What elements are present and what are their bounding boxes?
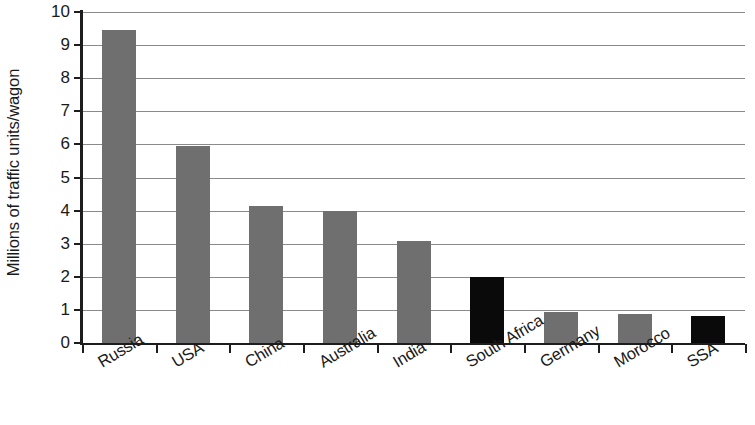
bars-layer bbox=[82, 12, 745, 343]
x-axis-tick bbox=[671, 344, 673, 353]
x-axis-tick bbox=[377, 344, 379, 353]
y-axis-tick bbox=[74, 44, 83, 46]
y-axis-tick bbox=[74, 276, 83, 278]
x-axis-tick bbox=[598, 344, 600, 353]
x-axis-tick bbox=[303, 344, 305, 353]
y-axis-tick-label: 9 bbox=[44, 36, 70, 53]
y-axis-tick bbox=[74, 243, 83, 245]
y-axis-tick-label: 8 bbox=[44, 69, 70, 86]
y-axis-tick-label: 7 bbox=[44, 102, 70, 119]
y-axis-tick bbox=[74, 11, 83, 13]
y-axis-tick bbox=[74, 143, 83, 145]
x-axis-tick bbox=[524, 344, 526, 353]
bar-australia bbox=[323, 211, 357, 343]
y-axis-tick-label: 4 bbox=[44, 202, 70, 219]
y-axis-title: Millions of traffic units/wagon bbox=[0, 0, 26, 345]
bar-china bbox=[249, 206, 283, 343]
bar-chart: Millions of traffic units/wagon 10987654… bbox=[0, 0, 755, 425]
bar-usa bbox=[176, 146, 210, 343]
x-axis-tick bbox=[450, 344, 452, 353]
y-axis-tick-label: 1 bbox=[44, 301, 70, 318]
y-axis-tick-label: 3 bbox=[44, 235, 70, 252]
y-axis-tick-label: 2 bbox=[44, 268, 70, 285]
y-axis-tick bbox=[74, 210, 83, 212]
y-axis-tick bbox=[74, 342, 83, 344]
y-axis-tick-label: 10 bbox=[44, 3, 70, 20]
x-axis-tick bbox=[745, 344, 747, 353]
y-axis-tick bbox=[74, 177, 83, 179]
y-axis-tick-label: 6 bbox=[44, 135, 70, 152]
y-axis-tick-labels: 109876543210 bbox=[38, 0, 70, 425]
x-axis-tick bbox=[82, 344, 84, 353]
x-axis-tick bbox=[229, 344, 231, 353]
bar-russia bbox=[102, 30, 136, 343]
bar-india bbox=[397, 241, 431, 343]
y-axis-tick bbox=[74, 110, 83, 112]
y-axis-tick-label: 0 bbox=[44, 334, 70, 351]
y-axis-tick bbox=[74, 77, 83, 79]
y-axis-tick-label: 5 bbox=[44, 169, 70, 186]
y-axis-tick bbox=[74, 309, 83, 311]
x-axis-tick bbox=[156, 344, 158, 353]
